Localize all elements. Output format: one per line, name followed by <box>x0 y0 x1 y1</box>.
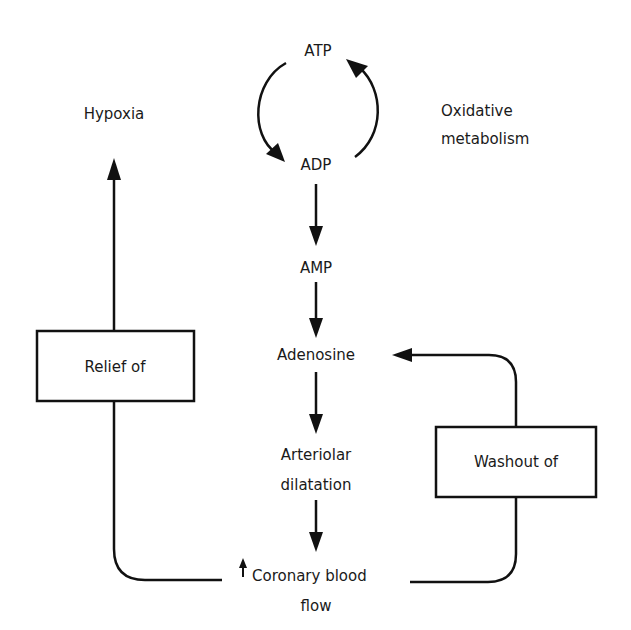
adenosine-to-dilatation-arrow <box>309 372 323 434</box>
relief-of-label: Relief of <box>84 358 146 376</box>
coronary-flow-label-line1: Coronary blood <box>252 567 367 585</box>
diagram-canvas: ATP ADP Oxidative metabolism AMP Adenosi… <box>0 0 631 630</box>
adenosine-label: Adenosine <box>277 346 355 364</box>
coronary-flow-label-line2: flow <box>301 597 332 615</box>
cycle-left-arrow <box>258 63 286 162</box>
dilatation-to-flow-arrow <box>309 500 323 552</box>
arrowhead-icon <box>392 348 412 362</box>
arteriolar-label-line1: Arteriolar <box>281 446 352 464</box>
arrowhead-icon <box>309 414 323 434</box>
arrowhead-icon <box>309 226 323 246</box>
amp-to-adenosine-arrow <box>309 282 323 338</box>
oxidative-label-line1: Oxidative <box>441 102 513 120</box>
oxidative-label-line2: metabolism <box>441 130 529 148</box>
arrowhead-icon <box>309 532 323 552</box>
arteriolar-label-line2: dilatation <box>281 476 352 494</box>
washout-of-label: Washout of <box>474 453 559 471</box>
cycle-right-arrow <box>346 59 378 157</box>
arrowhead-icon <box>309 318 323 338</box>
amp-label: AMP <box>300 259 332 277</box>
up-arrow-icon <box>239 558 247 577</box>
arrowhead-icon <box>107 158 121 180</box>
hypoxia-label: Hypoxia <box>84 105 145 123</box>
arrowhead-icon <box>346 59 368 78</box>
atp-label: ATP <box>304 42 331 60</box>
adp-label: ADP <box>301 156 332 174</box>
adp-to-amp-arrow <box>309 184 323 246</box>
